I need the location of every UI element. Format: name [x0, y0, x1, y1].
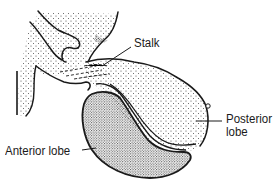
posterior-lobe-label-line2: lobe	[226, 126, 248, 139]
anterior-lobe-label: Anterior lobe	[5, 145, 70, 158]
stalk-label: Stalk	[134, 37, 160, 50]
